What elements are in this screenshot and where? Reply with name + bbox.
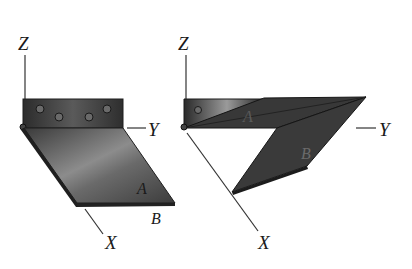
right-y-label: Y bbox=[379, 120, 390, 139]
right-hinge-pin bbox=[181, 124, 187, 130]
right-figure bbox=[181, 55, 376, 231]
left-z-label: Z bbox=[18, 34, 29, 53]
left-x-label: X bbox=[105, 233, 117, 252]
left-y-label: Y bbox=[148, 120, 159, 139]
left-bracket bbox=[23, 99, 123, 128]
left-x-axis-line bbox=[85, 209, 103, 234]
left-plate-a-label: A bbox=[137, 181, 147, 197]
right-x-label: X bbox=[258, 233, 270, 252]
right-plate-a-label: A bbox=[243, 109, 253, 125]
left-plate-bottom-edge bbox=[76, 203, 175, 207]
right-plate-b-label: B bbox=[301, 146, 311, 162]
right-z-label: Z bbox=[178, 34, 189, 53]
right-screw-icon bbox=[195, 107, 202, 114]
left-plate-b-label: B bbox=[151, 211, 161, 227]
hinged-plates-diagram bbox=[0, 0, 412, 269]
left-figure bbox=[20, 55, 175, 234]
